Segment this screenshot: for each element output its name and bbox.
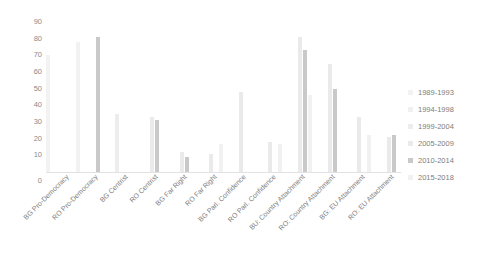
y-tick-label: 90 (2, 18, 42, 26)
legend-swatch-icon (408, 175, 413, 180)
legend-item[interactable]: 2005-2009 (408, 135, 503, 152)
y-tick-label: 70 (2, 51, 42, 59)
legend-item[interactable]: 2010-2014 (408, 152, 503, 169)
bar (328, 64, 332, 172)
legend-item[interactable]: 1999-2004 (408, 118, 503, 135)
y-tick-label: 10 (2, 151, 42, 159)
bar (268, 142, 272, 172)
bar (180, 152, 184, 172)
bar-group (76, 22, 106, 172)
bar-group (312, 22, 342, 172)
bar (357, 117, 361, 172)
y-tick-label: 60 (2, 68, 42, 76)
legend-label: 1999-2004 (418, 122, 454, 131)
bar-group (164, 22, 194, 172)
legend-item[interactable]: 1994-1998 (408, 101, 503, 118)
legend-item[interactable]: 2015-2018 (408, 169, 503, 186)
bar (115, 114, 119, 172)
y-tick-label: 20 (2, 135, 42, 143)
bar (387, 137, 391, 172)
bar (333, 89, 337, 172)
x-axis-labels: BG Pro-DemocracyRO Pro-DemocracyBG Centr… (46, 173, 401, 272)
y-tick-label: 80 (2, 35, 42, 43)
plot-area (46, 22, 401, 172)
bar (298, 37, 302, 172)
bar-group (342, 22, 372, 172)
bar (150, 117, 154, 172)
legend-label: 1989-1993 (418, 88, 454, 97)
bar (155, 120, 159, 172)
bar-group (194, 22, 224, 172)
bar-group (224, 22, 254, 172)
bar-group (135, 22, 165, 172)
legend-item[interactable]: 1989-1993 (408, 84, 503, 101)
bar-group (253, 22, 283, 172)
bar (303, 50, 307, 172)
legend-swatch-icon (408, 107, 413, 112)
chart-legend: 1989-19931994-19981999-20042005-20092010… (408, 84, 503, 186)
bar (209, 154, 213, 172)
y-tick-label: 30 (2, 118, 42, 126)
bar-group (371, 22, 401, 172)
bar (96, 37, 100, 172)
legend-swatch-icon (408, 124, 413, 129)
legend-swatch-icon (408, 141, 413, 146)
y-axis: 1020304050607080900 (0, 22, 42, 173)
y-tick-label: 40 (2, 101, 42, 109)
bar (76, 42, 80, 172)
bar (239, 92, 243, 172)
bar-chart: 1020304050607080900 BG Pro-DemocracyRO P… (0, 0, 503, 272)
legend-label: 2005-2009 (418, 139, 454, 148)
legend-swatch-icon (408, 158, 413, 163)
bar-group (46, 22, 76, 172)
legend-swatch-icon (408, 90, 413, 95)
legend-label: 2010-2014 (418, 156, 454, 165)
y-tick-label: 50 (2, 85, 42, 93)
legend-label: 1994-1998 (418, 105, 454, 114)
bar-group (105, 22, 135, 172)
bar-group (283, 22, 313, 172)
bar (392, 135, 396, 172)
bar (185, 157, 189, 172)
legend-label: 2015-2018 (418, 173, 454, 182)
bar (46, 55, 50, 172)
y-tick-label: 0 (2, 177, 42, 185)
